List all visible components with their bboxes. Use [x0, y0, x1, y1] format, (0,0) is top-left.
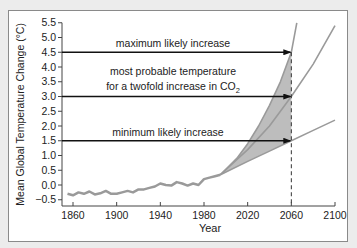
y-axis-label: Mean Global Temperature Change (°C)	[14, 23, 26, 206]
min-annotation: minimum likely increase	[112, 126, 224, 138]
y-tick-label: 4.5	[41, 46, 56, 58]
x-tick-label: 1940	[149, 209, 173, 221]
most-probable-annotation-line2: for a twofold increase in CO2	[106, 80, 240, 95]
x-tick-label: 1900	[105, 209, 129, 221]
x-tick-label: 1980	[192, 209, 216, 221]
max-annotation: maximum likely increase	[116, 37, 231, 49]
y-tick-label: 5.0	[41, 31, 56, 43]
y-tick-label: 3.5	[41, 75, 56, 87]
x-axis-label: Year	[199, 222, 222, 234]
x-tick-label: 2060	[280, 209, 304, 221]
y-tick-label: 2.5	[41, 105, 56, 117]
y-tick-label: 4.0	[41, 61, 56, 73]
x-tick-label: 1860	[61, 209, 85, 221]
temperature-chart: −0.50.00.51.01.52.02.53.03.54.04.55.05.5…	[0, 0, 357, 248]
y-tick-label: 1.5	[41, 134, 56, 146]
y-tick-label: 2.0	[41, 120, 56, 132]
y-tick-label: 0.5	[41, 164, 56, 176]
y-tick-label: 5.5	[41, 16, 56, 28]
x-tick-label: 2100	[323, 209, 347, 221]
y-tick-label: −0.5	[35, 193, 56, 205]
x-tick-label: 2020	[236, 209, 260, 221]
y-tick-label: 3.0	[41, 90, 56, 102]
most-probable-annotation-line1: most probable temperature	[110, 65, 236, 77]
y-tick-label: 1.0	[41, 149, 56, 161]
y-tick-label: 0.0	[41, 179, 56, 191]
historical-temperature-line	[68, 175, 221, 196]
